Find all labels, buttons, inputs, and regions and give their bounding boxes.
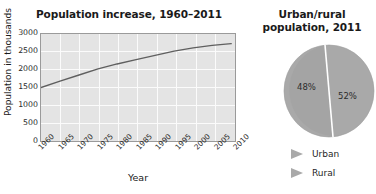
x-tick-1970: 1970 — [76, 133, 95, 152]
pie-title-line-1: Urban/rural — [278, 8, 345, 20]
triangle-right-icon — [290, 148, 304, 160]
x-tick-1980: 1980 — [115, 133, 134, 152]
legend-item-rural[interactable]: Rural — [290, 163, 376, 182]
legend-label-rural: Rural — [312, 168, 335, 178]
x-tick-1975: 1975 — [96, 133, 115, 152]
pie-chart: Urban/rural population, 2011 48% 52% Urb… — [248, 0, 376, 194]
pie-chart-title: Urban/rural population, 2011 — [248, 8, 376, 33]
legend-item-urban[interactable]: Urban — [290, 144, 376, 163]
pie-graphic: 48% 52% — [283, 44, 375, 138]
line-chart: Population increase, 1960–2011 Populatio… — [0, 0, 248, 194]
x-tick-1965: 1965 — [57, 133, 76, 152]
x-tick-1960: 1960 — [37, 133, 56, 152]
pie-title-line-2: population, 2011 — [248, 21, 376, 34]
x-tick-1995: 1995 — [174, 133, 193, 152]
figure-container: Population increase, 1960–2011 Populatio… — [0, 0, 376, 194]
x-tick-1990: 1990 — [154, 133, 173, 152]
triangle-right-icon — [290, 167, 304, 179]
x-tick-2005: 2005 — [213, 133, 232, 152]
x-axis-label: Year — [40, 172, 236, 183]
pie-legend: Urban Rural — [290, 144, 376, 182]
x-axis-tick-group: 1960 1965 1970 1975 1980 1985 1990 1995 … — [0, 0, 248, 194]
x-tick-1985: 1985 — [135, 133, 154, 152]
x-tick-2000: 2000 — [193, 133, 212, 152]
legend-label-urban: Urban — [312, 149, 339, 159]
pie-slice-label-48: 48% — [297, 82, 316, 92]
pie-slice-label-52: 52% — [338, 91, 357, 101]
